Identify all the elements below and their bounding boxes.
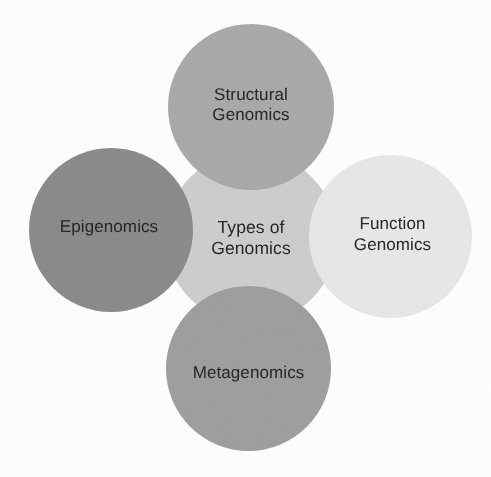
bubble-metagenomics: Metagenomics <box>166 286 331 451</box>
bubble-label-epigenomics: Epigenomics <box>60 217 158 237</box>
bubble-label-function-genomics: Function Genomics <box>354 214 431 254</box>
hub-label: Types of Genomics <box>211 217 291 258</box>
bubble-label-structural-genomics: Structural Genomics <box>212 85 289 125</box>
bubble-function-genomics: Function Genomics <box>309 155 472 318</box>
bubble-structural-genomics: Structural Genomics <box>168 24 334 190</box>
genomics-types-diagram: Types of Genomics Structural Genomics Ep… <box>0 0 491 477</box>
bubble-label-metagenomics: Metagenomics <box>193 363 305 383</box>
bubble-epigenomics: Epigenomics <box>29 148 193 312</box>
